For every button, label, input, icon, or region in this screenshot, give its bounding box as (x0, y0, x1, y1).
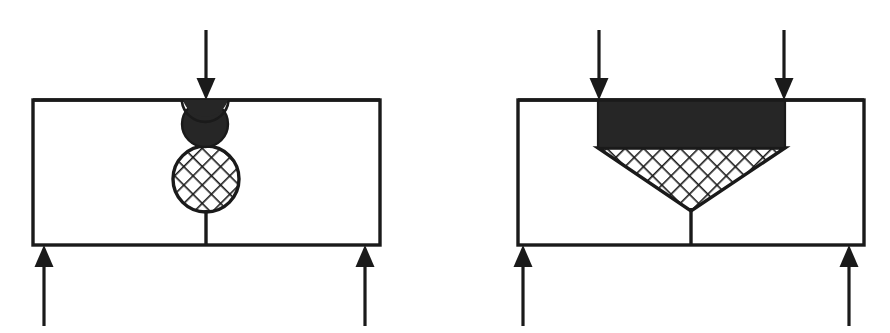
left-hatched-plastic-circle (173, 146, 239, 212)
right-dark-contact-band (598, 100, 785, 148)
figure-root (0, 0, 890, 333)
contact-loading-diagram (0, 0, 890, 333)
